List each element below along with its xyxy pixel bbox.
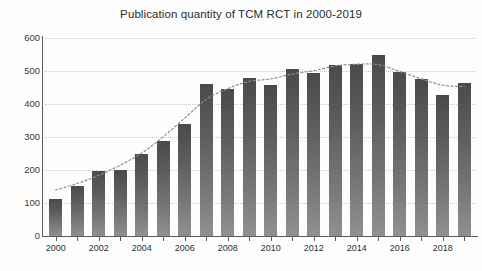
x-axis-tick [443,236,444,241]
bar [243,78,256,236]
x-axis-tick-label: 2014 [347,243,367,253]
y-axis-line [42,36,43,237]
bar [436,95,449,236]
gridline [45,137,475,138]
x-axis-line [42,236,478,237]
x-axis-tick-label: 2012 [304,243,324,253]
x-axis-tick [314,236,315,241]
bar [178,124,191,236]
x-axis-tick [77,236,78,241]
x-axis-tick-label: 2006 [175,243,195,253]
x-axis-tick [400,236,401,241]
y-axis-tick-label: 0 [0,230,40,241]
chart-container: Publication quantity of TCM RCT in 2000-… [0,0,482,271]
bar [264,85,277,236]
bar [307,73,320,236]
bar [350,64,363,236]
bar [114,170,127,236]
x-axis-tick [464,236,465,241]
x-axis-tick [120,236,121,241]
x-axis-tick-label: 2008 [218,243,238,253]
bar [329,65,342,236]
x-axis-tick [185,236,186,241]
x-axis-tick [421,236,422,241]
gridline [45,170,475,171]
x-axis-tick [56,236,57,241]
x-axis-tick [335,236,336,241]
bar [135,154,148,237]
bar [92,171,105,236]
x-axis-tick [249,236,250,241]
x-axis-tick [357,236,358,241]
bar [286,69,299,236]
y-axis-tick-label: 500 [0,65,40,76]
bar [221,89,234,236]
x-axis-tick [378,236,379,241]
bar [157,141,170,236]
x-axis-tick-label: 2004 [132,243,152,253]
chart-title: Publication quantity of TCM RCT in 2000-… [0,8,482,20]
bar [200,84,213,236]
x-axis-tick-label: 2018 [433,243,453,253]
x-axis-tick [271,236,272,241]
bar [372,55,385,236]
x-axis-tick [163,236,164,241]
x-axis-tick [99,236,100,241]
bar [458,83,471,236]
gridline [45,203,475,204]
x-axis-tick [292,236,293,241]
x-axis-tick [142,236,143,241]
gridline [45,38,475,39]
y-axis-tick-label: 200 [0,164,40,175]
x-axis-tick-label: 2002 [89,243,109,253]
plot-area [45,38,475,236]
y-axis-tick-labels: 0100200300400500600 [0,38,40,236]
bar [393,72,406,236]
y-axis-tick-label: 600 [0,32,40,43]
x-axis-tick [206,236,207,241]
x-axis-tick-label: 2000 [46,243,66,253]
bar [415,79,428,236]
y-axis-tick-label: 100 [0,197,40,208]
bar [49,199,62,236]
bar [71,186,84,236]
x-axis-tick-label: 2016 [390,243,410,253]
gridline [45,71,475,72]
gridline [45,104,475,105]
y-axis-tick-label: 400 [0,98,40,109]
x-axis-tick [228,236,229,241]
x-axis-tick-label: 2010 [261,243,281,253]
y-axis-tick-label: 300 [0,131,40,142]
